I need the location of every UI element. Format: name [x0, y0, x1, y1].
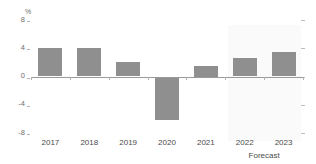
x-axis-tick-mark [186, 77, 187, 80]
x-axis-label-2023: 2023 [264, 138, 304, 147]
y-axis-tick-label: 4 [21, 44, 25, 52]
x-axis-tick-mark [303, 77, 304, 80]
forecast-shaded-band [228, 25, 302, 141]
y-axis-tick-mark [27, 21, 30, 22]
bar-2020 [155, 77, 179, 121]
x-axis-tick-mark [70, 77, 71, 80]
y-axis-tick-mark [27, 134, 30, 135]
x-axis-label-2017: 2017 [30, 138, 70, 147]
zero-baseline [31, 77, 303, 79]
bar-2019 [116, 62, 140, 77]
y-axis-tick-label: 8 [21, 16, 25, 24]
forecast-caption: Forecast [234, 151, 294, 160]
y-axis-tick-label: -8 [18, 129, 25, 137]
plot-area: 840-4-8 [31, 20, 303, 133]
x-axis-label-2018: 2018 [69, 138, 109, 147]
bar-2023 [272, 52, 296, 76]
y-axis-tick-mark [27, 78, 30, 79]
x-axis-label-2021: 2021 [186, 138, 226, 147]
y-axis-tick-label: -4 [18, 100, 25, 108]
y-axis-tick-label: 0 [21, 72, 25, 80]
right-axis-tick-mark [301, 105, 305, 106]
x-axis-tick-mark [225, 77, 226, 80]
x-axis-label-2020: 2020 [147, 138, 187, 147]
bar-2021 [194, 66, 218, 77]
x-axis-tick-mark [109, 77, 110, 80]
y-axis-tick-mark [27, 49, 30, 50]
right-axis-tick-mark [301, 133, 305, 134]
x-axis-tick-mark [31, 77, 32, 80]
right-axis-tick-mark [301, 20, 305, 21]
x-axis-tick-mark [148, 77, 149, 80]
bar-2018 [77, 48, 101, 77]
y-axis-unit-label: % [25, 8, 31, 16]
x-axis-tick-mark [264, 77, 265, 80]
bar-2017 [38, 48, 62, 77]
bar-2022 [233, 58, 257, 76]
x-axis-label-2022: 2022 [225, 138, 265, 147]
x-axis-label-2019: 2019 [108, 138, 148, 147]
right-axis-tick-mark [301, 48, 305, 49]
bar-chart: % 840-4-8 2017201820192020202120222023 F… [0, 0, 316, 164]
y-axis-tick-mark [27, 106, 30, 107]
